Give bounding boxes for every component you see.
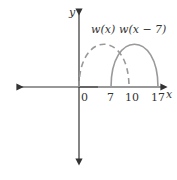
graph: y x w(x) w(x − 7) 0 7 10 17 [0,0,177,180]
y-axis-label: y [68,6,76,19]
tick-0: 0 [81,91,88,104]
x-axis-label: x [166,88,173,101]
tick-17: 17 [151,91,165,104]
tick-7: 7 [107,91,114,104]
curve2-label: w(x − 7) [119,23,166,36]
curve1-label: w(x) [91,23,115,36]
tick-10: 10 [125,91,139,104]
